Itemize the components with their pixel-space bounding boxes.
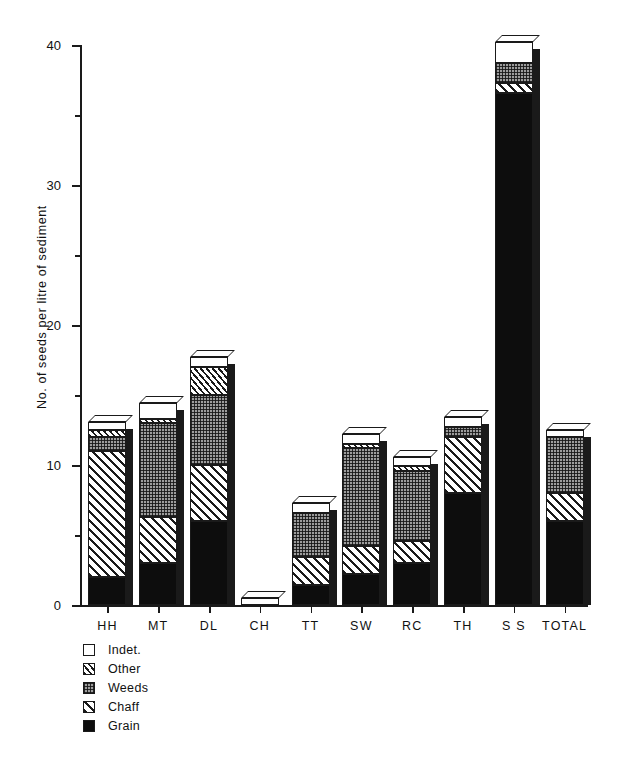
x-axis-label-hh: HH	[97, 619, 117, 633]
bar-top-face	[495, 35, 540, 42]
bar-side-face	[279, 605, 286, 607]
x-axis-label-th: TH	[453, 619, 472, 633]
bar-side-face	[584, 437, 591, 605]
bar-segment-indet	[139, 403, 177, 418]
x-tick-dl	[209, 605, 211, 613]
legend-swatch-icon	[83, 663, 95, 675]
bar-tt[interactable]	[292, 45, 330, 605]
legend-item-indet[interactable]: Indet.	[83, 640, 148, 659]
bar-segment-grain	[495, 93, 533, 605]
bar-segment-grain	[342, 574, 380, 605]
y-tick-minor-25	[75, 255, 80, 257]
bar-segment-chaff	[393, 541, 431, 563]
x-tick-th	[463, 605, 465, 613]
bar-segment-grain	[292, 585, 330, 605]
bar-segment-indet	[393, 457, 431, 467]
bar-mt[interactable]	[139, 45, 177, 605]
plot-area: 010203040 HHMTDLCHTTSWRCTHS STOTAL	[80, 45, 588, 605]
bar-segment-weeds	[88, 437, 126, 451]
bar-side-face	[431, 464, 438, 605]
bar-segment-chaff	[546, 493, 584, 521]
bar-segment-indet	[342, 434, 380, 444]
bar-dl[interactable]	[190, 45, 228, 605]
bar-segment-indet	[88, 422, 126, 430]
bar-segment-weeds	[444, 427, 482, 437]
y-tick-20: 20	[72, 325, 80, 327]
x-tick-total	[565, 605, 567, 613]
x-axis-label-ch: CH	[250, 619, 270, 633]
bar-segment-indet	[190, 357, 228, 367]
bar-segment-weeds	[139, 423, 177, 517]
bar-segment-indet	[292, 503, 330, 513]
legend-item-label: Other	[108, 662, 141, 676]
bar-segment-chaff	[495, 83, 533, 93]
legend-item-label: Indet.	[108, 643, 141, 657]
bar-th[interactable]	[444, 45, 482, 605]
y-tick-0: 0	[72, 605, 80, 607]
y-tick-label-30: 30	[47, 178, 61, 193]
y-tick-minor-5	[75, 535, 80, 537]
x-axis-label-tt: TT	[302, 619, 320, 633]
x-axis-label-sw: SW	[350, 619, 373, 633]
y-tick-30: 30	[72, 185, 80, 187]
bar-segment-weeds	[495, 63, 533, 83]
bar-segment-other	[139, 419, 177, 423]
y-tick-label-20: 20	[47, 318, 61, 333]
bar-rc[interactable]	[393, 45, 431, 605]
bar-s-s[interactable]	[495, 45, 533, 605]
x-tick-rc	[412, 605, 414, 613]
bar-hh[interactable]	[88, 45, 126, 605]
bar-ch[interactable]	[241, 45, 279, 605]
y-tick-40: 40	[72, 45, 80, 47]
bar-segment-indet	[546, 430, 584, 437]
bar-side-face	[533, 49, 540, 605]
y-tick-label-10: 10	[47, 458, 61, 473]
y-tick-10: 10	[72, 465, 80, 467]
x-tick-mt	[158, 605, 160, 613]
bar-side-face	[380, 441, 387, 605]
bar-segment-indet	[241, 598, 279, 605]
y-axis-line	[80, 45, 82, 605]
x-axis-label-s-s: S S	[502, 619, 526, 633]
legend-swatch-icon	[83, 682, 95, 694]
bar-segment-chaff	[139, 517, 177, 563]
bar-segment-weeds	[546, 437, 584, 493]
bar-segment-grain	[139, 563, 177, 605]
y-tick-label-40: 40	[47, 38, 61, 53]
legend-item-other[interactable]: Other	[83, 659, 148, 678]
bar-segment-chaff	[190, 465, 228, 521]
bar-segment-other	[342, 444, 380, 448]
x-axis-label-dl: DL	[200, 619, 218, 633]
x-tick-tt	[311, 605, 313, 613]
x-axis-label-total: TOTAL	[542, 619, 587, 633]
legend-swatch-icon	[83, 644, 95, 656]
legend-item-label: Grain	[108, 719, 140, 733]
x-tick-hh	[107, 605, 109, 613]
bar-segment-weeds	[190, 395, 228, 465]
stacked-bar-chart-figure: No. of seeds per litre of sediment 01020…	[0, 0, 617, 765]
legend-item-weeds[interactable]: Weeds	[83, 678, 148, 697]
x-tick-s-s	[514, 605, 516, 613]
bar-segment-grain	[444, 493, 482, 605]
bar-segment-grain	[393, 563, 431, 605]
y-tick-label-0: 0	[54, 598, 61, 613]
legend-item-grain[interactable]: Grain	[83, 716, 148, 735]
legend-swatch-icon	[83, 701, 95, 713]
bar-segment-chaff	[88, 451, 126, 577]
bar-segment-grain	[88, 577, 126, 605]
bar-segment-other	[393, 466, 431, 470]
bar-segment-chaff	[444, 437, 482, 493]
bar-segment-other	[190, 367, 228, 395]
y-axis-title: No. of seeds per litre of sediment	[35, 177, 49, 437]
bar-segment-weeds	[342, 448, 380, 546]
bar-segment-grain	[190, 521, 228, 605]
bar-sw[interactable]	[342, 45, 380, 605]
y-tick-minor-15	[75, 395, 80, 397]
bar-total[interactable]	[546, 45, 584, 605]
legend-item-chaff[interactable]: Chaff	[83, 697, 148, 716]
x-axis-line	[80, 605, 588, 607]
bar-side-face	[482, 424, 489, 605]
bar-side-face	[330, 510, 337, 605]
chart-legend: Indet.OtherWeedsChaffGrain	[83, 640, 148, 735]
bar-segment-weeds	[393, 471, 431, 541]
